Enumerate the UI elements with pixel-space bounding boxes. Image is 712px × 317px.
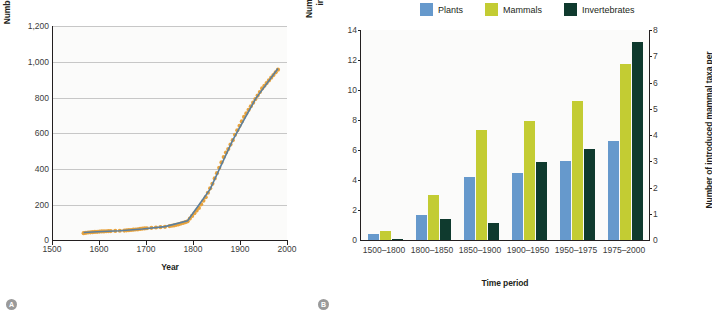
legend-item-plants[interactable]: Plants (420, 3, 463, 16)
legend-item-invertebrates[interactable]: Invertebrates (564, 3, 635, 16)
panel-b-y-tick-left: 10 (348, 85, 357, 95)
panel-b-y-tick-left: 2 (352, 205, 357, 215)
legend-label-invertebrates: Invertebrates (582, 5, 635, 15)
panel-b-y-tick-right: 2 (653, 183, 658, 193)
panel-b-legend: Plants Mammals Invertebrates (420, 3, 635, 16)
bar-group (368, 30, 403, 240)
panel-a-trend-line (84, 68, 278, 232)
panel-b-badge: B (318, 299, 329, 310)
panel-b-bar-chart: Plants Mammals Invertebrates Number of i… (312, 0, 712, 317)
panel-b-x-tick: 1800–1850 (411, 245, 454, 255)
legend-label-plants: Plants (438, 5, 463, 15)
bar-mammals[interactable] (620, 64, 631, 240)
bar-plants[interactable] (608, 141, 619, 240)
panel-a-data-svg (0, 0, 312, 260)
panel-b-x-tick: 1975–2000 (603, 245, 646, 255)
panel-b-x-tick: 1900–1950 (507, 245, 550, 255)
panel-b-y-axis-label-left: Number of introduced plant and invertebr… (304, 0, 325, 40)
bar-group (512, 30, 547, 240)
panel-b-plot-area: 14 12 10 8 6 4 2 0 8 7 6 5 4 3 2 1 0 (360, 30, 650, 241)
legend-swatch-invertebrates (564, 3, 577, 16)
bar-group (464, 30, 499, 240)
bar-plants[interactable] (512, 173, 523, 241)
panel-b-x-tick: 1950–1975 (555, 245, 598, 255)
bar-invertebrates[interactable] (392, 239, 403, 241)
panel-b-y-tick-left: 12 (348, 55, 357, 65)
bar-plants[interactable] (416, 215, 427, 241)
panel-b-y-tick-left: 8 (352, 115, 357, 125)
panel-b-y-tick-left: 6 (352, 145, 357, 155)
bar-mammals[interactable] (524, 121, 535, 240)
panel-b-y-tick-right: 3 (653, 156, 658, 166)
bar-invertebrates[interactable] (536, 162, 547, 240)
panel-b-x-axis-label: Time period (360, 278, 650, 288)
bar-invertebrates[interactable] (584, 149, 595, 240)
legend-label-mammals: Mammals (503, 5, 542, 15)
bar-mammals[interactable] (476, 130, 487, 240)
panel-a-x-axis-label: Year (52, 262, 288, 272)
panel-a-line-chart: Number of non-native species 1,200 1,000… (0, 0, 312, 317)
panel-b-x-tick: 1850–1900 (459, 245, 502, 255)
panel-b-y-axis-label-right: Number of introduced mammal taxa per yea… (704, 45, 712, 215)
bar-group (608, 30, 643, 240)
panel-b-y-tick-right: 6 (653, 78, 658, 88)
panel-b-y-tick-left: 0 (352, 235, 357, 245)
legend-swatch-mammals (485, 3, 498, 16)
panel-b-y-tick-left: 14 (348, 25, 357, 35)
panel-b-bar-groups (361, 30, 649, 240)
panel-b-y-tick-right: 4 (653, 130, 658, 140)
bar-group (416, 30, 451, 240)
panel-a-scatter-points (82, 68, 281, 236)
legend-item-mammals[interactable]: Mammals (485, 3, 542, 16)
bar-invertebrates[interactable] (632, 42, 643, 240)
legend-swatch-plants (420, 3, 433, 16)
bar-mammals[interactable] (572, 101, 583, 240)
bar-mammals[interactable] (380, 231, 391, 240)
figure-container: Number of non-native species 1,200 1,000… (0, 0, 712, 317)
bar-plants[interactable] (560, 161, 571, 241)
panel-b-y-tick-right: 1 (653, 209, 658, 219)
panel-b-x-tick: 1500–1800 (363, 245, 406, 255)
panel-b-y-tick-left: 4 (352, 175, 357, 185)
bar-invertebrates[interactable] (440, 219, 451, 240)
bar-mammals[interactable] (428, 195, 439, 240)
panel-b-y-tick-right: 7 (653, 51, 658, 61)
bar-invertebrates[interactable] (488, 223, 499, 240)
bar-group (560, 30, 595, 240)
panel-a-badge: A (6, 299, 17, 310)
panel-b-y-tick-right: 8 (653, 25, 658, 35)
bar-plants[interactable] (368, 234, 379, 240)
bar-plants[interactable] (464, 177, 475, 240)
panel-b-y-tick-right: 5 (653, 104, 658, 114)
panel-b-y-tick-right: 0 (653, 235, 658, 245)
